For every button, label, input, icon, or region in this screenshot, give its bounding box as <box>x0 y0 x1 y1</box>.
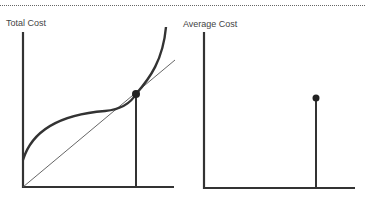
min-average-cost-dot <box>313 95 320 102</box>
average-cost-chart <box>203 32 355 189</box>
ray-from-origin <box>23 60 175 187</box>
tangent-point-dot <box>132 90 140 98</box>
charts-canvas <box>0 0 365 199</box>
total-cost-curve <box>23 27 166 160</box>
total-cost-chart <box>22 27 175 188</box>
